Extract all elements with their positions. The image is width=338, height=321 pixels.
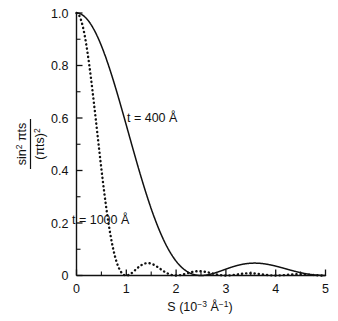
y-tick-label: 1.0	[51, 7, 68, 21]
y-num-base: sin	[15, 149, 29, 165]
y-tick-marks	[77, 13, 83, 276]
x-tick-label: 4	[272, 282, 279, 296]
y-axis-numerator: sin2 πts	[14, 123, 29, 166]
x-tick-labels: 012345	[73, 282, 329, 296]
y-tick-label: 0	[62, 269, 69, 283]
x-tick-label: 0	[73, 282, 80, 296]
annotation-t-1000: t = 1000 Å	[72, 212, 130, 227]
y-den-base: (πts)	[33, 133, 47, 160]
y-tick-label: 0.6	[51, 112, 68, 126]
x-tick-label: 1	[123, 282, 130, 296]
x-axis-group: 012345	[73, 270, 329, 296]
x-title-exp1: −3	[197, 299, 207, 309]
y-tick-labels: 00.20.40.60.81.0	[51, 7, 68, 284]
x-tick-label: 5	[322, 282, 329, 296]
figure-container: 00.20.40.60.81.0 012345 sin2 πts (πts)2 …	[0, 0, 338, 321]
x-tick-label: 2	[173, 282, 180, 296]
y-tick-label: 0.2	[51, 217, 68, 231]
y-num-tail: πts	[15, 123, 29, 145]
x-title-main: S (10	[167, 300, 197, 314]
x-title-exp2: −1	[219, 299, 229, 309]
chart-svg: 00.20.40.60.81.0 012345 sin2 πts (πts)2 …	[0, 0, 338, 321]
x-axis-title: S (10−3 Å−1)	[167, 299, 232, 314]
y-tick-label: 0.8	[51, 59, 68, 73]
x-title-close: )	[228, 300, 232, 314]
annotation-t-400: t = 400 Å	[127, 110, 178, 125]
y-tick-label: 0.4	[51, 164, 68, 178]
curve-t-1000	[77, 13, 326, 276]
y-axis-denominator: (πts)2	[32, 128, 47, 160]
y-den-sup: 2	[32, 128, 42, 133]
curve-t-400	[77, 13, 326, 276]
data-curves	[77, 13, 326, 276]
y-axis-title: sin2 πts (πts)2	[14, 119, 47, 169]
x-tick-label: 3	[222, 282, 229, 296]
y-axis-group: 00.20.40.60.81.0	[51, 7, 82, 284]
x-title-mid: Å	[207, 299, 219, 314]
